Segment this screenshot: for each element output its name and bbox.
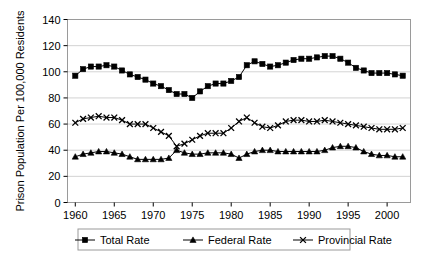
y-tick-label-80: 80 [48, 92, 60, 104]
legend-label-provincial-rate: Provincial Rate [318, 234, 392, 246]
data-point-total-rate-1960 [73, 73, 78, 78]
legend: Total RateFederal RateProvincial Rate [75, 229, 392, 250]
data-point-total-rate-2002 [400, 73, 405, 78]
data-point-total-rate-1981 [236, 74, 241, 79]
y-tick-label-20: 20 [48, 170, 60, 182]
y-axis-title-group: Prison Population Per 100,000 Residents [14, 10, 26, 212]
y-axis-title: Prison Population Per 100,000 Residents [14, 10, 26, 212]
data-point-total-rate-1965 [112, 64, 117, 69]
data-point-total-rate-1994 [338, 56, 343, 61]
x-tick-label-1985: 1985 [258, 209, 282, 221]
line-chart: 020406080100120140Prison Population Per … [0, 0, 428, 267]
data-point-total-rate-1969 [143, 77, 148, 82]
data-point-total-rate-1991 [314, 55, 319, 60]
legend-label-total-rate: Total Rate [100, 234, 150, 246]
data-point-total-rate-1975 [190, 95, 195, 100]
data-point-provincial-rate-1976 [197, 133, 203, 139]
data-point-total-rate-1982 [244, 63, 249, 68]
x-tick-label-1990: 1990 [297, 209, 321, 221]
data-point-federal-rate-1981 [236, 155, 242, 161]
data-point-total-rate-1973 [174, 91, 179, 96]
data-point-federal-rate-1997 [361, 148, 367, 154]
x-tick-label-2000: 2000 [375, 209, 399, 221]
data-point-total-rate-1983 [252, 59, 257, 64]
data-point-provincial-rate-1981 [236, 119, 242, 125]
data-point-total-rate-1986 [275, 63, 280, 68]
series-federal-rate [72, 143, 406, 162]
y-tick-label-0: 0 [54, 197, 60, 209]
y-tick-label-60: 60 [48, 118, 60, 130]
series-total-rate [73, 54, 406, 101]
chart-container: 020406080100120140Prison Population Per … [0, 0, 428, 267]
data-point-total-rate-1976 [197, 89, 202, 94]
data-point-total-rate-1977 [205, 84, 210, 89]
data-point-total-rate-1989 [299, 56, 304, 61]
data-point-provincial-rate-1983 [252, 120, 258, 126]
data-point-total-rate-1998 [369, 70, 374, 75]
data-point-total-rate-1963 [96, 64, 101, 69]
plot-area-border [68, 20, 411, 203]
gridlines [68, 20, 411, 177]
data-point-total-rate-1974 [182, 91, 187, 96]
data-point-provincial-rate-1971 [158, 129, 164, 135]
data-point-total-rate-2001 [392, 72, 397, 77]
data-point-total-rate-1985 [268, 64, 273, 69]
x-tick-label-1970: 1970 [141, 209, 165, 221]
data-point-total-rate-2000 [385, 70, 390, 75]
legend-label-federal-rate: Federal Rate [208, 234, 272, 246]
data-point-total-rate-1980 [229, 78, 234, 83]
y-tick-label-40: 40 [48, 144, 60, 156]
data-point-provincial-rate-1960 [72, 120, 78, 126]
data-point-provincial-rate-1975 [189, 137, 195, 143]
x-axis: 196019651970197519801985199019952000 [63, 203, 399, 221]
series-provincial-rate [72, 113, 405, 149]
data-point-total-rate-1970 [151, 81, 156, 86]
y-tick-label-140: 140 [42, 14, 60, 26]
data-point-provincial-rate-1974 [182, 141, 188, 147]
plot-frame [68, 20, 411, 203]
data-point-total-rate-1961 [80, 67, 85, 72]
x-tick-label-1960: 1960 [63, 209, 87, 221]
data-point-provincial-rate-1986 [275, 122, 281, 128]
x-tick-label-1975: 1975 [180, 209, 204, 221]
data-point-total-rate-1997 [361, 68, 366, 73]
legend-marker-total-rate [82, 237, 87, 242]
data-point-total-rate-1972 [166, 87, 171, 92]
data-point-total-rate-1962 [88, 64, 93, 69]
x-tick-label-1965: 1965 [102, 209, 126, 221]
data-point-total-rate-1995 [346, 60, 351, 65]
data-point-provincial-rate-1970 [150, 125, 156, 131]
data-point-total-rate-1978 [213, 81, 218, 86]
data-point-total-rate-1993 [330, 54, 335, 59]
y-tick-label-100: 100 [42, 66, 60, 78]
data-point-total-rate-1966 [119, 68, 124, 73]
data-point-total-rate-1967 [127, 72, 132, 77]
x-tick-label-1995: 1995 [336, 209, 360, 221]
data-point-total-rate-1996 [353, 65, 358, 70]
data-point-total-rate-1990 [307, 56, 312, 61]
data-point-total-rate-1987 [283, 60, 288, 65]
data-point-provincial-rate-1982 [244, 115, 250, 121]
y-axis: 020406080100120140 [42, 14, 67, 209]
data-point-total-rate-1992 [322, 54, 327, 59]
data-point-total-rate-1964 [104, 63, 109, 68]
data-point-provincial-rate-1966 [119, 117, 125, 123]
data-point-total-rate-1984 [260, 61, 265, 66]
data-point-total-rate-1968 [135, 74, 140, 79]
data-point-total-rate-1988 [291, 57, 296, 62]
data-point-provincial-rate-1980 [228, 125, 234, 131]
data-point-total-rate-1971 [158, 84, 163, 89]
data-point-provincial-rate-1972 [166, 133, 172, 139]
data-point-total-rate-1999 [377, 70, 382, 75]
data-point-total-rate-1979 [221, 81, 226, 86]
y-tick-label-120: 120 [42, 40, 60, 52]
x-tick-label-1980: 1980 [219, 209, 243, 221]
